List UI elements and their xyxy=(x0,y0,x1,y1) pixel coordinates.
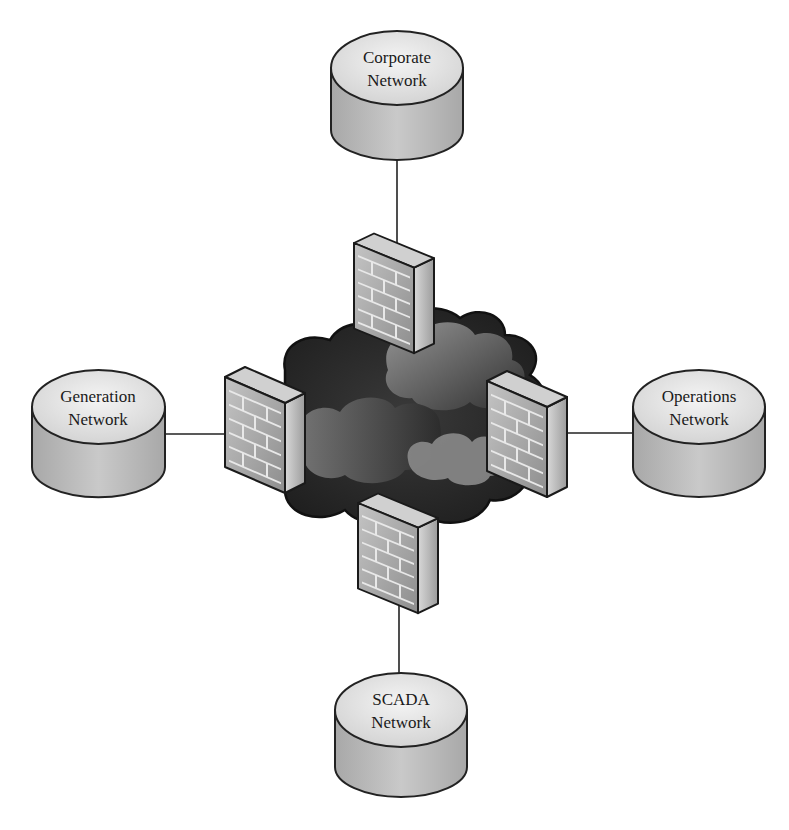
node-label-line2: Network xyxy=(371,713,431,732)
node-operations-network: Operations Network xyxy=(633,370,765,497)
node-label-line2: Network xyxy=(367,71,427,90)
node-label-line2: Network xyxy=(68,410,128,429)
node-label-line1: Corporate xyxy=(363,48,431,67)
node-scada-network: SCADA Network xyxy=(335,673,467,797)
node-label-line2: Network xyxy=(669,410,729,429)
network-diagram: Corporate Network Generation Network Ope… xyxy=(0,0,789,830)
node-generation-network: Generation Network xyxy=(32,370,165,497)
node-label-line1: SCADA xyxy=(372,690,430,709)
node-corporate-network: Corporate Network xyxy=(331,31,463,160)
node-label-line1: Generation xyxy=(60,387,136,406)
node-label-line1: Operations xyxy=(662,387,737,406)
